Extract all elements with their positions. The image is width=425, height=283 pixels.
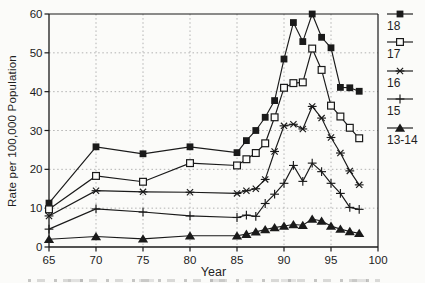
y-axis-title: Rate per 100,000 Population [6, 15, 20, 248]
legend-label: 15 [385, 105, 425, 118]
filled-triangle-marker [288, 220, 298, 228]
filled-square-marker [318, 34, 325, 41]
y-tick-label: 40 [30, 86, 43, 98]
filled-square-marker [309, 11, 316, 18]
filled-triangle-marker [307, 214, 317, 222]
y-tick-label: 20 [30, 163, 43, 175]
legend-entry-17: 17 [385, 36, 425, 64]
filled-triangle-marker [91, 232, 101, 240]
filled-square-marker [397, 11, 404, 18]
open-square-marker [187, 160, 194, 167]
open-square-marker [397, 39, 404, 46]
open-square-marker [46, 206, 53, 213]
filled-square-marker [356, 88, 363, 95]
filled-square-marker [346, 84, 353, 91]
filled-square-marker [281, 56, 288, 63]
open-square-marker [356, 135, 363, 142]
y-tick-label: 0 [36, 241, 42, 253]
legend-label: 17 [385, 48, 425, 61]
series-16 [45, 103, 364, 219]
open-square-marker [318, 67, 325, 74]
filled-square-marker [243, 137, 250, 144]
legend-entry-13-14: 13-14 [385, 122, 425, 150]
open-square-marker [299, 79, 306, 86]
filled-triangle-marker [335, 225, 345, 233]
cropped-caption-remnant [28, 279, 380, 282]
open-square-marker [262, 140, 269, 147]
legend-label: 16 [385, 77, 425, 90]
open-square-marker [140, 178, 147, 185]
legend-entry-18: 18 [385, 8, 425, 36]
open-square-marker [337, 113, 344, 120]
filled-triangle-marker [326, 221, 336, 229]
filled-square-marker [262, 114, 269, 121]
open-square-marker [252, 150, 259, 157]
filled-square-marker [328, 44, 335, 51]
chart-plot-area: 010203040506065707580859095100 [0, 0, 425, 283]
filled-square-marker [290, 19, 297, 26]
open-square-marker [290, 80, 297, 87]
figure: 010203040506065707580859095100 Rate per … [0, 0, 425, 283]
legend-label: 13-14 [385, 134, 425, 147]
y-tick-label: 60 [30, 8, 43, 20]
y-tick-label: 30 [30, 125, 43, 137]
legend: 1817161513-14 [385, 8, 425, 150]
series-13-14 [44, 214, 364, 242]
open-square-marker [346, 124, 353, 131]
filled-square-marker [271, 97, 278, 104]
y-tick-label: 10 [30, 202, 43, 214]
open-square-marker [281, 84, 288, 91]
legend-marker [386, 122, 414, 134]
legend-entry-16: 16 [385, 65, 425, 93]
x-axis-title: Year [49, 265, 378, 279]
open-square-marker [234, 162, 241, 169]
filled-square-marker [299, 38, 306, 45]
legend-marker [386, 65, 414, 77]
legend-label: 18 [385, 20, 425, 33]
legend-entry-15: 15 [385, 93, 425, 121]
filled-square-marker [337, 84, 344, 91]
filled-square-marker [252, 127, 259, 134]
open-square-marker [93, 173, 100, 180]
open-square-marker [328, 102, 335, 109]
open-square-marker [243, 156, 250, 163]
open-square-marker [271, 114, 278, 121]
filled-square-marker [234, 149, 241, 156]
filled-square-marker [93, 143, 100, 150]
filled-square-marker [140, 150, 147, 157]
open-square-marker [309, 45, 316, 52]
y-tick-label: 50 [30, 47, 43, 59]
filled-square-marker [187, 143, 194, 150]
